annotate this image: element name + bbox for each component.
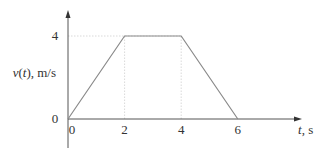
x-axis-label: t, s: [298, 122, 313, 137]
y-axis-label: v(t), m/s: [13, 65, 56, 80]
x-tick-label-0: 0: [69, 122, 76, 137]
guide-lines: [68, 36, 181, 119]
x-tick-label-4: 4: [178, 122, 185, 137]
x-axis-arrow-icon: [294, 117, 302, 122]
x-tick-label-2: 2: [121, 122, 128, 137]
series-v: [68, 36, 238, 119]
y-tick-label-4: 4: [52, 28, 59, 43]
y-tick-label-0: 0: [52, 111, 59, 126]
x-tick-label-6: 6: [235, 122, 242, 137]
y-axis-arrow-icon: [66, 10, 71, 18]
series-line-v: [68, 36, 238, 119]
velocity-time-chart: 024604 v(t), m/s t, s: [0, 0, 335, 151]
